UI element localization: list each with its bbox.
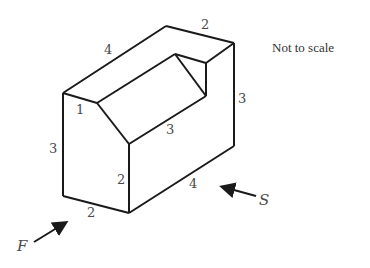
view-arrows: F S: [16, 187, 269, 255]
label-left-vertical-edge: 3: [49, 141, 57, 156]
not-to-scale-note: Not to scale: [272, 40, 334, 56]
label-bottom-front-edge: 2: [87, 205, 95, 220]
label-front-view: F: [16, 237, 28, 255]
label-front-vertical-edge: 2: [117, 172, 125, 187]
side-view-arrow-icon: [223, 187, 256, 196]
label-top-left-edge: 4: [104, 42, 112, 57]
front-view-arrow-icon: [34, 223, 65, 242]
solid-outline: [63, 26, 234, 213]
label-ridge-length: 3: [166, 122, 174, 137]
label-slope-edge: 1: [76, 102, 84, 117]
label-bottom-right-edge: 4: [189, 176, 197, 191]
label-side-view: S: [259, 191, 269, 209]
label-right-vertical-edge: 3: [238, 91, 246, 106]
dimension-labels: 4 2 3 1 3 3 2 4 2: [49, 17, 246, 220]
label-top-back-edge: 2: [201, 17, 209, 32]
